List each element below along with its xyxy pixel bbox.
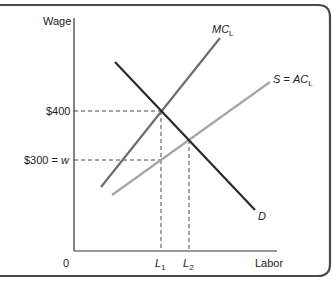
x-axis-label: Labor	[255, 257, 283, 269]
x-tick-L1-sub: 1	[161, 263, 166, 272]
x-tick-L2-sub: 2	[189, 263, 194, 272]
mc-l-label: MCL	[212, 23, 234, 38]
supply-label-ac: AC	[292, 73, 308, 85]
y-axis-label: Wage	[43, 15, 71, 27]
supply-label-sub: L	[308, 79, 313, 88]
demand-label: D	[258, 210, 266, 222]
x-tick-L2: L2	[183, 257, 194, 272]
chart-frame	[0, 5, 330, 276]
mc-l-label-base: MC	[212, 23, 229, 35]
mc-l-label-sub: L	[229, 29, 234, 38]
supply-label-eq: =	[280, 73, 293, 85]
y-tick-300-w: w	[61, 154, 70, 166]
origin-label: 0	[63, 257, 69, 269]
supply-ac-l-curve	[112, 82, 270, 195]
x-tick-L1: L1	[155, 257, 166, 272]
mc-l-curve	[101, 38, 220, 187]
demand-curve	[115, 62, 255, 210]
y-tick-400: $400	[46, 105, 70, 117]
y-tick-300: $300 = w	[24, 154, 70, 166]
supply-ac-l-label: S = ACL	[273, 73, 313, 88]
monopsony-labor-chart: Wage Labor 0 $400 $300 = w L1 L2 MCL S =…	[0, 0, 334, 289]
y-tick-300-value: $300 =	[24, 154, 61, 166]
